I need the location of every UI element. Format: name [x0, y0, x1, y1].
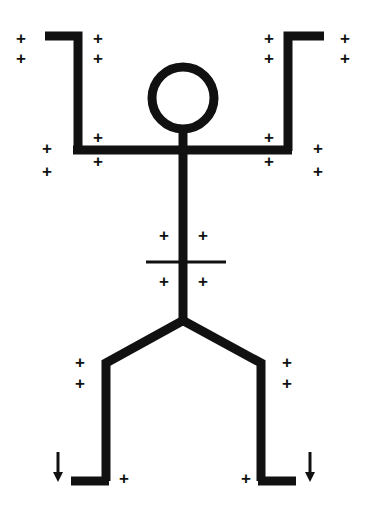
diagram-canvas: ++++++++++++++++++++++++++	[0, 0, 365, 515]
head-circle	[152, 67, 214, 129]
left-leg-polyline	[106, 320, 184, 481]
right-leg-polyline	[182, 320, 261, 481]
right-arm-polyline	[288, 36, 324, 151]
stick-figure-drawing	[0, 0, 365, 515]
left-arm-polyline	[45, 36, 78, 151]
